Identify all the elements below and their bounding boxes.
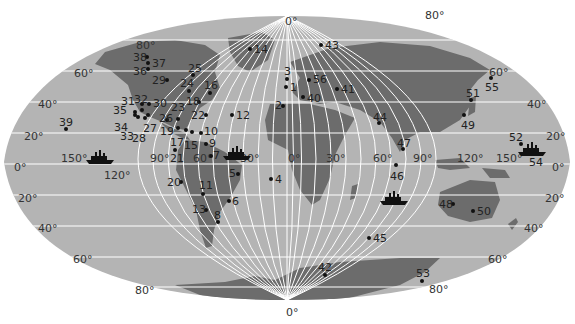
latitude-label: 60°	[74, 68, 94, 79]
location-label: 45	[373, 233, 387, 244]
location-marker	[176, 117, 180, 121]
location-label: 26	[159, 113, 173, 124]
location-label: 47	[397, 138, 411, 149]
location-marker	[462, 113, 466, 117]
location-marker	[143, 116, 147, 120]
latitude-label: 0°	[552, 162, 565, 173]
location-label: 3	[284, 66, 291, 77]
ship-icon-indian	[380, 190, 408, 209]
location-label: 43	[325, 40, 339, 51]
latitude-label: 80°	[425, 10, 445, 21]
location-marker	[140, 108, 144, 112]
latitude-label: 80°	[429, 284, 449, 295]
location-label: 56	[313, 74, 327, 85]
longitude-label: 0°	[286, 307, 299, 318]
latitude-label: 40°	[527, 99, 547, 110]
location-label: 8	[214, 210, 221, 221]
longitude-label: 0°	[285, 16, 298, 27]
location-label: 6	[232, 196, 239, 207]
location-label: 41	[341, 84, 355, 95]
location-label: 50	[477, 206, 491, 217]
location-label: 15	[184, 140, 198, 151]
location-marker	[227, 199, 231, 203]
location-label: 12	[236, 110, 250, 121]
longitude-label: 60°	[373, 153, 393, 164]
location-marker	[367, 236, 371, 240]
location-marker	[236, 172, 240, 176]
location-label: 13	[192, 204, 206, 215]
location-label: 32	[134, 94, 148, 105]
location-marker	[307, 78, 311, 82]
location-label: 5	[229, 168, 236, 179]
location-label: 37	[152, 58, 166, 69]
location-marker	[489, 76, 493, 80]
latitude-label: 40°	[524, 223, 544, 234]
location-label: 36	[133, 66, 147, 77]
location-label: 11	[199, 180, 213, 191]
location-marker	[335, 87, 339, 91]
longitude-label: 150°	[61, 153, 88, 164]
longitude-label: 90°	[150, 153, 170, 164]
latitude-label: 80°	[135, 285, 155, 296]
longitude-label: 90°	[413, 153, 433, 164]
location-marker	[201, 192, 205, 196]
ship-icon-pacific	[86, 149, 114, 168]
latitude-label: 80°	[136, 40, 156, 51]
location-label: 7	[213, 150, 220, 161]
location-marker	[230, 113, 234, 117]
latitude-label: 20°	[546, 131, 566, 142]
latitude-label: 60°	[73, 254, 93, 265]
location-label: 21	[170, 153, 184, 164]
location-marker	[184, 128, 188, 132]
location-label: 34	[114, 122, 128, 133]
location-label: 39	[59, 117, 73, 128]
location-label: 44	[373, 112, 387, 123]
location-marker	[248, 47, 252, 51]
latitude-label: 60°	[488, 254, 508, 265]
location-label: 38	[133, 52, 147, 63]
location-label: 17	[170, 137, 184, 148]
location-label: 18	[186, 96, 200, 107]
longitude-label: 120°	[457, 153, 484, 164]
latitude-label: 20°	[24, 131, 44, 142]
location-label: 16	[204, 80, 218, 91]
location-marker	[133, 110, 137, 114]
location-label: 22	[191, 110, 205, 121]
latitude-label: 40°	[38, 99, 58, 110]
location-marker	[204, 142, 208, 146]
location-marker	[199, 131, 203, 135]
location-label: 1	[290, 82, 297, 93]
location-marker	[394, 163, 398, 167]
location-marker	[471, 209, 475, 213]
location-label: 51	[466, 88, 480, 99]
location-label: 42	[318, 262, 332, 273]
location-marker	[319, 43, 323, 47]
location-label: 55	[485, 82, 499, 93]
latitude-label: 40°	[38, 223, 58, 234]
latitude-label: 20°	[545, 193, 565, 204]
location-label: 19	[160, 126, 174, 137]
location-label: 20	[167, 177, 181, 188]
location-label: 48	[439, 199, 453, 210]
location-label: 14	[254, 44, 268, 55]
location-label: 9	[209, 138, 216, 149]
location-label: 2	[275, 100, 282, 111]
location-label: 49	[461, 120, 475, 131]
location-label: 10	[204, 126, 218, 137]
location-marker	[176, 126, 180, 130]
location-marker	[269, 177, 273, 181]
location-label: 46	[390, 171, 404, 182]
latitude-label: 0°	[14, 162, 27, 173]
location-label: 53	[416, 268, 430, 279]
location-label: 23	[171, 102, 185, 113]
ship-icon-west-pacific	[518, 141, 546, 160]
location-label: 30	[153, 98, 167, 109]
location-label: 28	[132, 133, 146, 144]
location-label: 29	[152, 75, 166, 86]
location-label: 24	[180, 78, 194, 89]
ship-icon-atlantic	[223, 145, 251, 164]
location-marker	[190, 130, 194, 134]
longitude-label: 120°	[104, 170, 131, 181]
location-label: 25	[188, 63, 202, 74]
longitude-label: 0°	[288, 153, 301, 164]
